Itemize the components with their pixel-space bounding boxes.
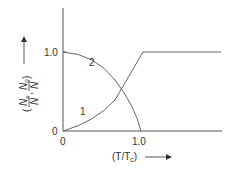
svg-text:): ) bbox=[21, 76, 32, 79]
x-tick-label-1: 1.0 bbox=[132, 136, 146, 147]
chart: 1.0 0 0 1.0 2 1 (T/Tc) ( Ne N , N0 N ) bbox=[0, 0, 231, 172]
curve-1 bbox=[63, 52, 221, 131]
arrow-right-icon bbox=[166, 154, 172, 160]
svg-text:N: N bbox=[29, 97, 40, 105]
x-axis-label: (T/Tc) bbox=[112, 151, 137, 163]
curve-2-label: 2 bbox=[89, 57, 95, 68]
x-tick-label-0: 0 bbox=[60, 136, 66, 147]
svg-text:(: ( bbox=[21, 108, 32, 112]
svg-text:N: N bbox=[29, 81, 40, 89]
y-tick-label-0: 0 bbox=[52, 126, 58, 137]
y-tick-label-1: 1.0 bbox=[44, 47, 58, 58]
svg-text:,: , bbox=[23, 92, 34, 95]
curve-2 bbox=[63, 52, 141, 131]
arrow-up-icon bbox=[21, 36, 27, 42]
curve-1-label: 1 bbox=[80, 106, 86, 117]
y-axis-label: ( Ne N , N0 N ) bbox=[18, 76, 40, 112]
